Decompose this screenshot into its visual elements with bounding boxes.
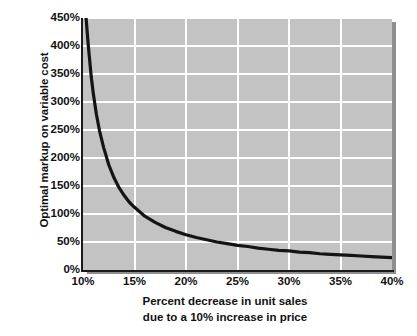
chart-figure: Optimal markup on variable cost 0%50%100… (0, 0, 417, 336)
y-axis-tick-label: 150% (24, 180, 80, 192)
x-axis-tick-label: 35% (318, 274, 364, 288)
plot-area (83, 18, 392, 270)
x-axis-tick-label: 25% (215, 274, 261, 288)
x-axis-tick-label: 30% (266, 274, 312, 288)
x-axis-tick-label: 20% (163, 274, 209, 288)
x-axis-tick-label: 15% (112, 274, 158, 288)
y-axis-tick-labels: 0%50%100%150%200%250%300%350%400%450% (24, 18, 80, 270)
y-axis-tick-label: 250% (24, 124, 80, 136)
x-axis-tick-label: 40% (369, 274, 415, 288)
y-axis-tick-label: 400% (24, 40, 80, 52)
x-axis-tick-label: 10% (60, 274, 106, 288)
x-axis-title-line-1: Percent decrease in unit sales (60, 294, 390, 310)
x-axis-title-line-2: due to a 10% increase in price (60, 310, 390, 326)
y-axis-line (81, 18, 83, 272)
y-axis-tick-label: 50% (24, 236, 80, 248)
x-axis-title: Percent decrease in unit sales due to a … (60, 294, 390, 325)
y-axis-tick-label: 300% (24, 96, 80, 108)
data-series-line (83, 18, 392, 270)
y-axis-tick-label: 200% (24, 152, 80, 164)
y-axis-tick-label: 100% (24, 208, 80, 220)
x-axis-tick-labels: 10%15%20%25%30%35%40% (83, 274, 392, 290)
y-axis-tick-label: 350% (24, 68, 80, 80)
y-axis-tick-label: 450% (24, 12, 80, 24)
x-axis-line (81, 270, 394, 272)
